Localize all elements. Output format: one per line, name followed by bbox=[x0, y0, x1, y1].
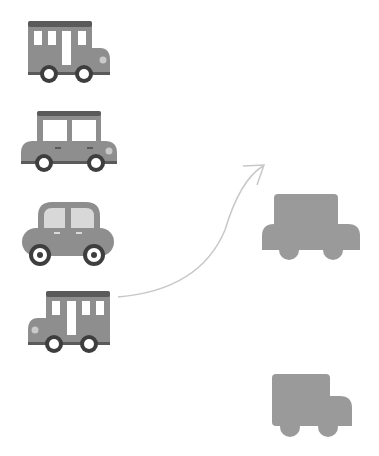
truck-silhouette-icon bbox=[270, 372, 354, 442]
shadow-car[interactable] bbox=[262, 192, 362, 262]
shadow-truck[interactable] bbox=[270, 372, 354, 442]
car-silhouette-icon bbox=[262, 192, 362, 262]
